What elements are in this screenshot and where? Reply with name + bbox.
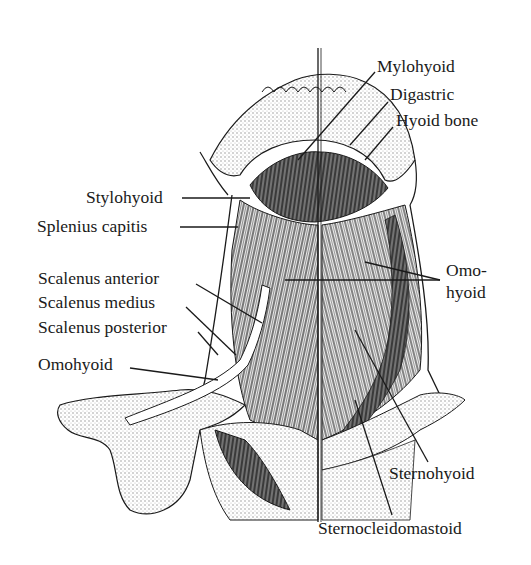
label-omohyoid-left: Omohyoid [38,356,113,374]
label-scalenus-posterior: Scalenus posterior [38,319,167,337]
label-hyoid-bone: Hyoid bone [396,112,478,130]
label-scalenus-medius: Scalenus medius [38,294,155,312]
label-omohyoid-right-line2: hyoid [446,284,486,302]
label-sternocleidomastoid: Sternocleidomastoid [318,520,462,538]
leader-omohyoid-left [130,368,218,380]
label-scalenus-anterior: Scalenus anterior [38,270,159,288]
floor-of-mouth [250,152,388,222]
label-mylohyoid: Mylohyoid [377,58,455,76]
neck-muscle-diagram: Mylohyoid Digastric Hyoid bone Stylohyoi… [0,0,531,565]
label-digastric: Digastric [390,86,454,104]
label-splenius-capitis: Splenius capitis [37,218,147,236]
label-stylohyoid: Stylohyoid [86,189,163,207]
label-omohyoid-right-line1: Omo- [446,262,487,280]
label-sternohyoid: Sternohyoid [389,465,475,483]
